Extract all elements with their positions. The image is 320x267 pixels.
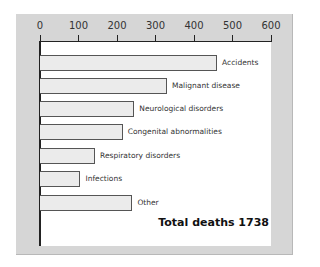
bar-label: Other [137,198,158,207]
total-deaths-annotation: Total deaths 1738 [158,216,269,229]
x-tick [155,35,156,41]
bar-label: Neurological disorders [139,104,223,113]
x-tick [40,35,41,41]
x-tick [194,35,195,41]
y-axis-line [39,41,41,246]
x-axis-line [40,41,272,42]
x-tick [232,35,233,41]
x-tick [78,35,79,41]
bar [40,78,167,94]
bar [40,124,123,140]
bar [40,171,80,187]
bar-label: Malignant disease [172,81,240,90]
x-tick-label: 600 [256,20,286,31]
bar [40,101,134,117]
x-tick-label: 300 [141,20,171,31]
bar-label: Congenital abnormalities [128,127,222,136]
bar-label: Accidents [222,58,258,67]
x-tick-label: 100 [64,20,94,31]
x-tick-label: 500 [218,20,248,31]
bar [40,195,132,211]
x-tick-label: 200 [102,20,132,31]
bar-label: Infections [85,174,122,183]
x-tick [117,35,118,41]
x-tick-label: 400 [179,20,209,31]
bar [40,148,95,164]
bar [40,55,217,71]
x-tick [271,35,272,41]
bar-label: Respiratory disorders [100,151,180,160]
x-tick-label: 0 [25,20,55,31]
